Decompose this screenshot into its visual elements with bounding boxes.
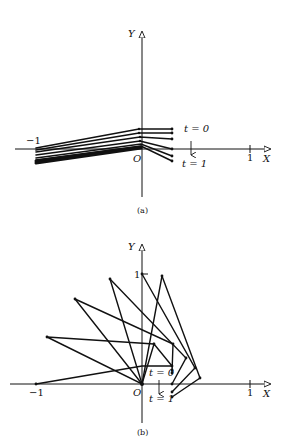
tick-label-one: 1 (247, 387, 253, 398)
tick-label-one: 1 (247, 152, 253, 163)
t-start-label: t = 0 (149, 367, 175, 378)
x-axis-label: X (262, 153, 271, 164)
y-axis-label: Y (128, 241, 136, 252)
tick-label-y-one: 1 (134, 269, 140, 280)
panel-b: Y X O −1 1 1 t = 0 t = 1 (b) (10, 241, 271, 437)
x-axis-label: X (262, 388, 271, 399)
figure-canvas: Y X O −1 1 t = 0 t = 1 (a) (0, 0, 288, 443)
tick-label-neg-one: −1 (26, 135, 41, 146)
t-end-label: t = 1 (182, 158, 207, 169)
origin-label: O (133, 153, 141, 164)
origin-label: O (133, 387, 141, 398)
y-axis-label: Y (128, 28, 136, 39)
tick-label-neg-one: −1 (29, 387, 44, 398)
t-end-label: t = 1 (149, 393, 174, 404)
t-start-label: t = 0 (184, 123, 210, 134)
panel-a: Y X O −1 1 t = 0 t = 1 (a) (15, 28, 271, 215)
panel-caption: (a) (137, 206, 148, 215)
linkage-family (36, 274, 200, 397)
linkage-family (36, 129, 172, 163)
panel-caption: (b) (137, 428, 148, 437)
